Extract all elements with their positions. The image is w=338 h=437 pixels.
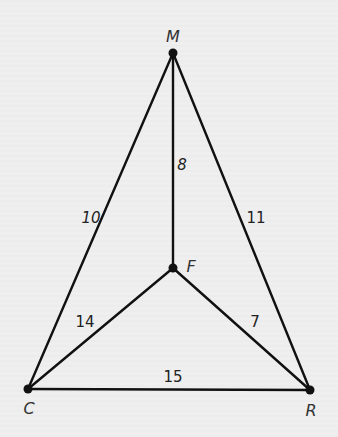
edge-f-c <box>28 268 173 389</box>
graph-diagram: M F C R 10 11 8 14 7 15 <box>0 0 338 437</box>
vertex-r <box>306 386 315 395</box>
vertex-c <box>24 385 33 394</box>
edge-c-r <box>28 389 310 390</box>
vertex-label-f: F <box>186 257 196 276</box>
edge-weight-c-r: 15 <box>163 368 182 386</box>
vertex-m <box>169 49 178 58</box>
edge-weight-m-c: 10 <box>81 209 100 227</box>
edge-f-r <box>173 268 310 390</box>
vertex-label-r: R <box>305 401 316 420</box>
diagram-canvas: M F C R 10 11 8 14 7 15 <box>0 0 338 437</box>
edge-weight-f-c: 14 <box>75 313 94 331</box>
edge-weight-m-f: 8 <box>177 156 187 174</box>
vertex-label-m: M <box>166 27 180 46</box>
edge-weight-f-r: 7 <box>250 313 260 331</box>
edge-weight-m-r: 11 <box>246 209 265 227</box>
edge-m-r <box>173 53 310 390</box>
vertex-label-c: C <box>23 399 35 418</box>
vertex-f <box>169 264 178 273</box>
